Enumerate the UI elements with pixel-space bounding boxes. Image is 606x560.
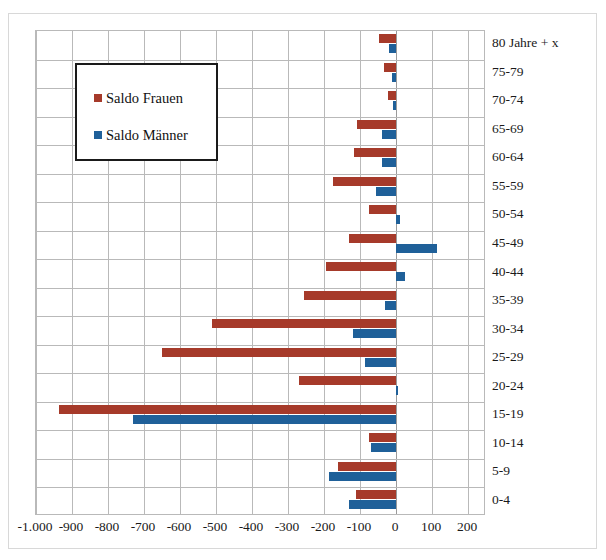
bar-group	[36, 487, 484, 516]
population-balance-chart: -1.000-900-800-700-600-500-400-300-200-1…	[0, 0, 606, 560]
bar-saldo-frauen[interactable]	[333, 177, 396, 186]
bar-saldo-maenner[interactable]	[329, 472, 396, 481]
category-label: 75-79	[492, 64, 524, 80]
bar-saldo-maenner[interactable]	[396, 386, 398, 395]
bar-saldo-maenner[interactable]	[396, 244, 437, 253]
bar-saldo-frauen[interactable]	[338, 462, 396, 471]
bar-saldo-frauen[interactable]	[299, 376, 396, 385]
bar-saldo-maenner[interactable]	[349, 500, 396, 509]
bar-saldo-frauen[interactable]	[162, 348, 396, 357]
category-label: 60-64	[492, 149, 524, 165]
category-label: 45-49	[492, 235, 524, 251]
category-label: 70-74	[492, 92, 524, 108]
category-label: 80 Jahre + x	[492, 35, 558, 51]
bar-saldo-frauen[interactable]	[349, 234, 396, 243]
bar-saldo-frauen[interactable]	[59, 405, 396, 414]
bar-saldo-maenner[interactable]	[382, 158, 396, 167]
category-label: 50-54	[492, 206, 524, 222]
bar-saldo-frauen[interactable]	[304, 291, 396, 300]
bar-saldo-frauen[interactable]	[354, 148, 396, 157]
bar-group	[36, 202, 484, 231]
bar-group	[36, 288, 484, 317]
bar-group	[36, 316, 484, 345]
chart-legend: Saldo Frauen Saldo Männer	[75, 63, 218, 161]
bar-group	[36, 231, 484, 260]
category-label: 25-29	[492, 349, 524, 365]
bar-group	[36, 430, 484, 459]
bar-saldo-frauen[interactable]	[379, 34, 396, 43]
legend-label: Saldo Männer	[106, 128, 188, 143]
category-label: 20-24	[492, 378, 524, 394]
bar-saldo-maenner[interactable]	[133, 415, 396, 424]
bar-saldo-maenner[interactable]	[382, 130, 396, 139]
bar-saldo-frauen[interactable]	[369, 205, 396, 214]
category-label: 40-44	[492, 264, 524, 280]
category-label: 10-14	[492, 435, 524, 451]
bar-saldo-frauen[interactable]	[384, 63, 396, 72]
legend-swatch-icon	[94, 131, 102, 139]
category-label: 30-34	[492, 321, 524, 337]
category-label: 55-59	[492, 178, 524, 194]
bar-saldo-frauen[interactable]	[357, 120, 396, 129]
bar-saldo-maenner[interactable]	[392, 73, 396, 82]
bar-group	[36, 459, 484, 488]
bar-group	[36, 373, 484, 402]
bar-saldo-frauen[interactable]	[356, 490, 396, 499]
bar-saldo-frauen[interactable]	[326, 262, 396, 271]
bar-saldo-frauen[interactable]	[369, 433, 396, 442]
bar-group	[36, 402, 484, 431]
bar-saldo-maenner[interactable]	[396, 272, 405, 281]
bar-saldo-frauen[interactable]	[388, 91, 396, 100]
x-axis-tick-label: 200	[437, 519, 497, 535]
legend-label: Saldo Frauen	[106, 91, 183, 106]
bar-group	[36, 174, 484, 203]
category-label: 15-19	[492, 406, 524, 422]
bar-saldo-maenner[interactable]	[353, 329, 396, 338]
legend-swatch-icon	[94, 94, 102, 102]
bar-saldo-maenner[interactable]	[376, 187, 396, 196]
bar-saldo-maenner[interactable]	[385, 301, 396, 310]
bar-saldo-maenner[interactable]	[371, 443, 396, 452]
category-label: 0-4	[492, 492, 510, 508]
category-label: 35-39	[492, 292, 524, 308]
bar-group	[36, 345, 484, 374]
bar-saldo-frauen[interactable]	[212, 319, 396, 328]
bar-saldo-maenner[interactable]	[365, 358, 396, 367]
category-label: 65-69	[492, 121, 524, 137]
bar-group	[36, 259, 484, 288]
legend-item-saldo-maenner[interactable]: Saldo Männer	[94, 128, 188, 143]
bar-group	[36, 31, 484, 60]
legend-item-saldo-frauen[interactable]: Saldo Frauen	[94, 91, 183, 106]
bar-saldo-maenner[interactable]	[389, 44, 396, 53]
bar-saldo-maenner[interactable]	[393, 101, 396, 110]
category-label: 5-9	[492, 463, 510, 479]
bar-saldo-maenner[interactable]	[396, 215, 400, 224]
